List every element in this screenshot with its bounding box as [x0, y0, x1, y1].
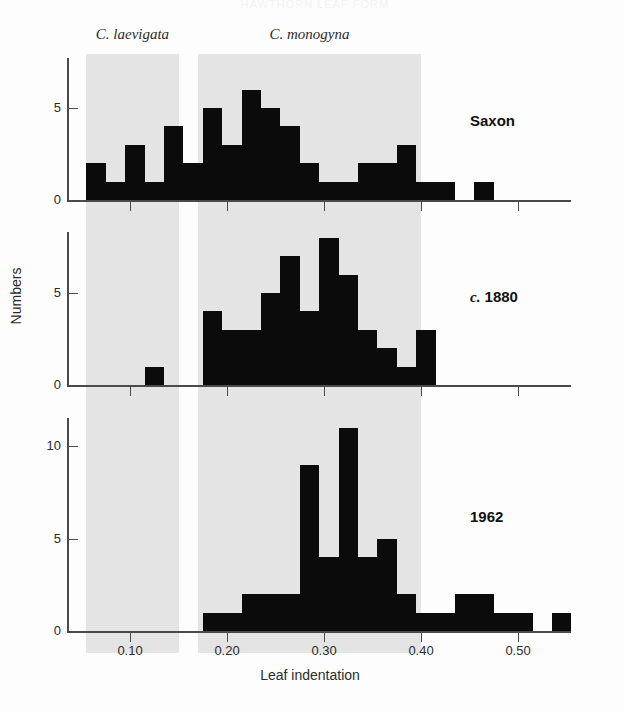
x-tick	[130, 633, 131, 642]
histogram-bar	[339, 428, 358, 632]
histogram-bar	[280, 594, 299, 631]
panel-1962: 05101962	[0, 0, 624, 711]
histogram-bar	[513, 613, 532, 632]
histogram-bar	[203, 613, 222, 632]
x-tick-label: 0.40	[398, 643, 444, 658]
x-tick	[324, 633, 325, 642]
histogram-bar	[358, 557, 377, 631]
species-label-2: C. monogyna	[258, 26, 362, 43]
histogram-bar	[222, 613, 241, 632]
y-axis-title: Numbers	[8, 256, 24, 336]
histogram-bar	[436, 613, 455, 632]
x-tick	[421, 202, 422, 211]
histogram-bar	[261, 594, 280, 631]
x-tick-label: 0.20	[204, 643, 250, 658]
x-tick	[518, 202, 519, 211]
x-tick	[227, 633, 228, 642]
y-tick-label: 5	[21, 531, 61, 546]
histogram-bar	[397, 594, 416, 631]
x-tick	[130, 387, 131, 396]
histogram-bar	[377, 539, 396, 632]
histogram-bar	[416, 613, 435, 632]
x-tick	[227, 202, 228, 211]
x-axis-baseline	[67, 631, 571, 633]
histogram-bar	[552, 613, 571, 632]
x-tick-label: 0.30	[301, 643, 347, 658]
y-tick-label: 0	[21, 623, 61, 638]
x-tick	[324, 202, 325, 211]
histogram-bar	[494, 613, 513, 632]
y-axis-spine	[67, 418, 69, 631]
histogram-bar	[455, 594, 474, 631]
figure-canvas: HAWTHORN LEAF FORM C. laevigataC. monogy…	[0, 0, 624, 711]
histogram-bar	[300, 465, 319, 632]
y-tick	[69, 446, 78, 447]
x-tick	[130, 202, 131, 211]
y-tick	[69, 539, 78, 540]
x-tick	[324, 387, 325, 396]
x-tick	[421, 633, 422, 642]
histogram-bar	[474, 594, 493, 631]
x-axis-title: Leaf indentation	[200, 667, 420, 683]
panel-label: 1962	[470, 508, 503, 525]
x-tick	[518, 387, 519, 396]
x-tick	[421, 387, 422, 396]
species-label-1: C. laevigata	[80, 26, 184, 43]
x-tick-label: 0.50	[495, 643, 541, 658]
x-tick	[518, 633, 519, 642]
histogram-bar	[319, 557, 338, 631]
x-tick-label: 0.10	[107, 643, 153, 658]
histogram-bar	[242, 594, 261, 631]
x-tick	[227, 387, 228, 396]
y-tick-label: 10	[21, 438, 61, 453]
